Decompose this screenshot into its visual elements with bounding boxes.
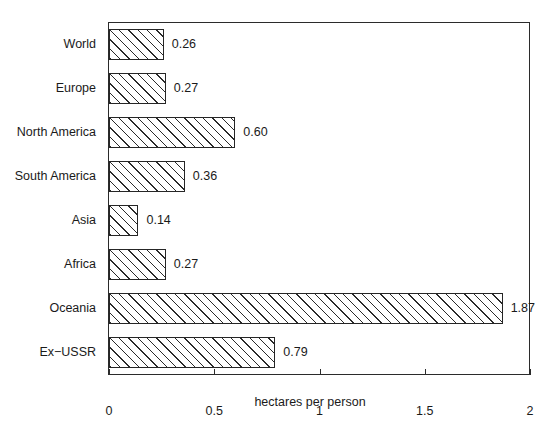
x-axis-ticks: 0 0.5 1 1.5 2 (109, 23, 530, 375)
category-axis-labels: World Europe North America South America… (0, 23, 102, 375)
x-axis-title-text: hectares per person (254, 395, 365, 409)
x-tick (530, 369, 531, 375)
category-label: World (0, 29, 102, 60)
category-label: South America (0, 161, 102, 192)
category-label: Oceania (0, 293, 102, 324)
x-tick (320, 369, 321, 375)
x-tick (109, 369, 110, 375)
category-label: Asia (0, 205, 102, 236)
category-label: Ex−USSR (0, 337, 102, 368)
bar-chart: World Europe North America South America… (0, 0, 552, 429)
x-tick (214, 369, 215, 375)
x-axis-title: hectares per person (0, 395, 552, 409)
category-label: North America (0, 117, 102, 148)
category-label: Africa (0, 249, 102, 280)
category-label: Europe (0, 73, 102, 104)
x-tick (425, 369, 426, 375)
